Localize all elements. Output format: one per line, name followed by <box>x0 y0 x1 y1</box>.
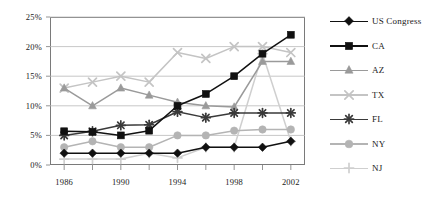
data-point-marker <box>61 128 68 135</box>
marker-diamond <box>202 143 210 151</box>
data-point-marker <box>116 121 125 130</box>
data-point-marker <box>202 143 210 151</box>
data-point-marker <box>89 128 96 135</box>
data-point-marker <box>145 149 153 157</box>
marker-square <box>231 73 238 80</box>
legend-swatch <box>330 39 368 53</box>
legend-label: NY <box>372 139 385 149</box>
marker-triangle <box>117 84 125 91</box>
legend-marker-square-icon <box>341 38 357 54</box>
x-axis-tick-label: 1986 <box>44 177 84 187</box>
x-axis-tick-label: 1994 <box>158 177 198 187</box>
legend-marker-circle-icon <box>341 136 357 152</box>
data-point-marker <box>230 143 238 151</box>
legend-swatch <box>330 112 368 126</box>
data-point-marker <box>202 132 209 139</box>
data-point-marker <box>259 126 266 133</box>
marker-circle <box>259 126 266 133</box>
data-point-marker <box>89 138 96 145</box>
legend-label: TX <box>372 90 384 100</box>
data-point-marker <box>89 102 97 109</box>
data-point-marker <box>117 132 124 139</box>
data-point-marker <box>230 127 237 134</box>
marker-square <box>287 31 294 38</box>
legend-item-az[interactable]: AZ <box>330 63 384 77</box>
marker-diamond <box>60 149 68 157</box>
marker-circle <box>89 138 96 145</box>
x-axis-tick-label: 1990 <box>101 177 141 187</box>
plot-container: 0%5%10%15%20%25%19861990199419982002 <box>0 0 320 207</box>
y-axis-tick-label: 15% <box>2 71 42 81</box>
marker-triangle <box>345 66 353 74</box>
data-point-marker <box>117 84 125 91</box>
legend-label: AZ <box>372 65 384 75</box>
x-axis-tick-label: 1998 <box>214 177 254 187</box>
legend-marker-diamond-icon <box>341 13 357 29</box>
data-point-marker <box>345 17 354 26</box>
legend-item-fl[interactable]: FL <box>330 112 383 126</box>
marker-circle <box>345 140 353 148</box>
marker-square <box>89 128 96 135</box>
data-point-marker <box>344 163 353 172</box>
marker-diamond <box>287 137 295 145</box>
marker-diamond <box>345 17 354 26</box>
legend-item-ca[interactable]: CA <box>330 39 385 53</box>
data-point-marker <box>174 132 181 139</box>
data-point-marker <box>201 113 210 122</box>
marker-square <box>345 42 352 49</box>
marker-circle <box>202 132 209 139</box>
data-point-marker <box>345 140 353 148</box>
data-point-marker <box>287 31 294 38</box>
marker-square <box>117 132 124 139</box>
legend-marker-asterisk-icon <box>341 111 357 127</box>
data-point-marker <box>345 66 353 74</box>
data-point-marker <box>174 102 181 109</box>
data-point-marker <box>345 90 353 98</box>
marker-circle <box>287 126 294 133</box>
series-line <box>64 35 291 136</box>
legend-swatch <box>330 88 368 102</box>
data-point-marker <box>230 108 239 117</box>
legend-item-us-congress[interactable]: US Congress <box>330 14 421 28</box>
marker-square <box>146 127 153 134</box>
legend-label: US Congress <box>372 16 421 26</box>
y-axis-tick-label: 0% <box>2 160 42 170</box>
marker-diamond <box>88 149 96 157</box>
marker-circle <box>174 132 181 139</box>
data-point-marker <box>60 149 68 157</box>
data-point-marker <box>146 127 153 134</box>
x-axis-tick-label: 2002 <box>271 177 311 187</box>
marker-triangle <box>89 102 97 109</box>
legend-swatch <box>330 161 368 175</box>
legend-item-ny[interactable]: NY <box>330 137 385 151</box>
data-point-marker <box>259 50 266 57</box>
marker-diamond <box>117 149 125 157</box>
chart-legend: US CongressCAAZTXFLNYNJ <box>330 14 443 194</box>
chart-canvas <box>0 0 320 207</box>
legend-marker-triangle-icon <box>341 62 357 78</box>
marker-square <box>61 128 68 135</box>
legend-item-nj[interactable]: NJ <box>330 161 382 175</box>
marker-square <box>202 91 209 98</box>
marker-diamond <box>145 149 153 157</box>
data-point-marker <box>88 149 96 157</box>
legend-swatch <box>330 63 368 77</box>
legend-item-tx[interactable]: TX <box>330 88 384 102</box>
data-point-marker <box>344 114 353 123</box>
legend-marker-cross-x-icon <box>341 87 357 103</box>
data-point-marker <box>258 143 266 151</box>
data-point-marker <box>287 137 295 145</box>
legend-label: NJ <box>372 163 382 173</box>
data-point-marker <box>286 108 295 117</box>
legend-marker-plus-icon <box>341 160 357 176</box>
marker-circle <box>230 127 237 134</box>
y-axis-tick-label: 5% <box>2 130 42 140</box>
data-point-marker <box>202 91 209 98</box>
legend-swatch <box>330 14 368 28</box>
marker-diamond <box>230 143 238 151</box>
data-point-marker <box>231 73 238 80</box>
y-axis-tick-label: 10% <box>2 101 42 111</box>
legend-label: CA <box>372 41 385 51</box>
data-point-marker <box>287 126 294 133</box>
data-point-marker <box>117 149 125 157</box>
